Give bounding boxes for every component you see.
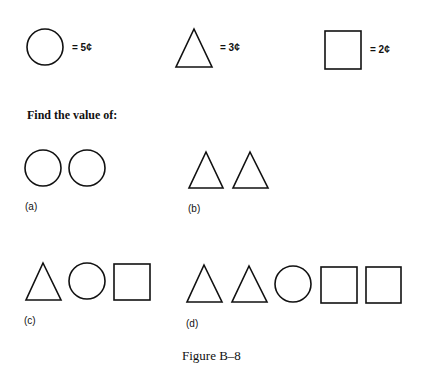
problem-b-triangle-icon [233, 152, 268, 188]
problem-c-triangle-icon [26, 263, 61, 300]
problem-d-triangle-icon [187, 265, 222, 302]
problem-a-circle-icon [69, 150, 105, 186]
problem-d-square-icon [366, 267, 401, 303]
problem-c-label: (c) [24, 315, 36, 326]
problem-d-square-icon [321, 267, 357, 303]
legend-square-value: = 2¢ [370, 44, 390, 55]
legend-triangle-value: = 3¢ [220, 42, 240, 53]
problem-d-triangle-icon [232, 266, 267, 302]
legend-triangle-icon [176, 29, 212, 67]
prompt-text: Find the value of: [27, 108, 117, 123]
problem-c-circle-icon [69, 263, 105, 299]
problem-d-label: (d) [186, 318, 198, 329]
problem-c-square-icon [114, 264, 150, 300]
problem-b-triangle-icon [189, 152, 223, 188]
figure-shapes [0, 0, 426, 377]
problem-d-circle-icon [275, 266, 311, 302]
problem-b-label: (b) [188, 203, 200, 214]
problem-a-label: (a) [25, 201, 37, 212]
figure-caption: Figure B–8 [182, 348, 241, 364]
legend-circle-icon [27, 29, 63, 65]
problem-a-circle-icon [25, 150, 61, 186]
legend-circle-value: = 5¢ [72, 42, 92, 53]
legend-square-icon [325, 31, 361, 69]
